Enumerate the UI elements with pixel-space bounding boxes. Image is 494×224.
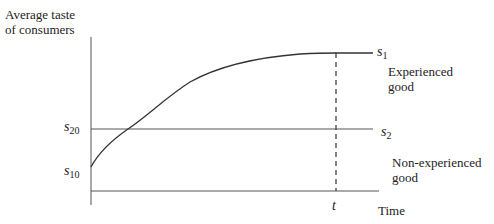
- label-s10: s10: [64, 163, 79, 182]
- y-axis-label: Average taste of consumers: [5, 7, 85, 37]
- label-s1: s1: [377, 44, 387, 63]
- non-experienced-good-label: Non-experienced good: [392, 155, 488, 185]
- x-axis-label: Time: [378, 203, 405, 218]
- label-s2: s2: [381, 124, 391, 143]
- experienced-good-label: Experienced good: [388, 64, 468, 94]
- experienced-good-curve: [91, 53, 373, 167]
- label-s20: s20: [64, 119, 79, 138]
- time-marker-t: t: [332, 198, 336, 213]
